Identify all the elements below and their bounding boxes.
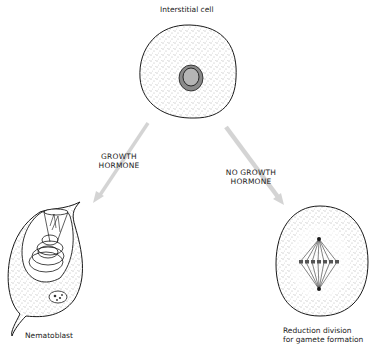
reduction-division-label: Reduction division for gamete formation	[283, 326, 363, 344]
arrow-no-growth-hormone	[226, 127, 284, 205]
growth-hormone-label: GROWTH HORMONE	[94, 152, 144, 170]
reduction-division-line1: Reduction division	[283, 326, 363, 335]
interstitial-cell-label: Interstitial cell	[160, 5, 214, 14]
no-growth-hormone-line1: NO GROWTH	[216, 168, 286, 177]
reduction-division-line2: for gamete formation	[283, 335, 363, 344]
nematoblast-nucleus	[49, 291, 67, 303]
chromosomes	[299, 260, 339, 264]
nematoblast	[8, 202, 82, 336]
no-growth-hormone-line2: HORMONE	[216, 177, 286, 186]
growth-hormone-line2: HORMONE	[94, 161, 144, 170]
nucleolus	[183, 68, 199, 86]
dividing-cell	[276, 206, 368, 316]
growth-hormone-line1: GROWTH	[94, 152, 144, 161]
interstitial-cell	[140, 25, 236, 118]
diagram-canvas	[0, 0, 377, 351]
nematoblast-label: Nematoblast	[25, 331, 73, 340]
no-growth-hormone-label: NO GROWTH HORMONE	[216, 168, 286, 186]
